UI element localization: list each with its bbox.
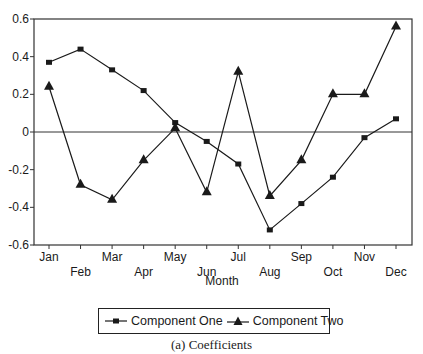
series-component-one xyxy=(46,47,399,233)
series-component-two xyxy=(44,21,401,203)
legend-label: Component Two xyxy=(253,314,344,328)
triangle-marker-icon xyxy=(139,154,149,163)
y-tick-label: 0.2 xyxy=(12,87,29,101)
y-axis-ticks: 0.60.40.20-0.2-0.4-0.6 xyxy=(8,12,34,252)
x-tick-label: Feb xyxy=(70,265,91,279)
square-marker-icon xyxy=(46,60,52,65)
x-axis-label: Month xyxy=(205,274,238,288)
square-marker-icon xyxy=(361,135,367,140)
x-tick-label: Aug xyxy=(259,265,280,279)
square-marker-icon xyxy=(267,227,273,232)
x-tick-label: Jul xyxy=(231,250,246,264)
y-tick-label: -0.4 xyxy=(8,200,29,214)
triangle-marker-icon xyxy=(359,88,369,97)
x-tick-label: Nov xyxy=(354,250,375,264)
y-tick-label: 0 xyxy=(22,125,29,139)
legend-item-component-two: Component Two xyxy=(227,314,344,328)
x-tick-label: Jan xyxy=(39,250,58,264)
square-marker-icon xyxy=(109,67,115,72)
triangle-marker-icon xyxy=(391,21,401,30)
line-chart: 0.60.40.20-0.2-0.4-0.6 JanFebMarAprMayJu… xyxy=(0,0,423,310)
triangle-marker-icon xyxy=(296,154,306,163)
x-tick-label: Sep xyxy=(291,250,313,264)
triangle-marker-icon xyxy=(227,316,249,326)
chart-series xyxy=(44,21,401,233)
y-tick-label: 0.6 xyxy=(12,12,29,26)
triangle-marker-icon xyxy=(233,66,243,75)
square-marker-icon xyxy=(298,201,304,206)
series-line xyxy=(49,27,396,200)
series-line xyxy=(49,49,396,230)
square-marker-icon xyxy=(141,88,147,93)
x-tick-label: Apr xyxy=(134,265,153,279)
legend-label: Component One xyxy=(131,314,223,328)
triangle-marker-icon xyxy=(44,81,54,90)
y-tick-label: -0.2 xyxy=(8,163,29,177)
x-tick-label: Mar xyxy=(102,250,123,264)
y-tick-label: 0.4 xyxy=(12,50,29,64)
triangle-marker-icon xyxy=(170,122,180,131)
x-tick-label: Dec xyxy=(385,265,406,279)
triangle-marker-icon xyxy=(328,88,338,97)
square-marker-icon xyxy=(330,175,336,180)
legend-item-component-one: Component One xyxy=(105,314,223,328)
triangle-marker-icon xyxy=(202,186,212,195)
y-tick-label: -0.6 xyxy=(8,238,29,252)
chart-legend: Component One Component Two xyxy=(98,308,330,334)
x-tick-label: May xyxy=(164,250,187,264)
square-marker-icon xyxy=(235,162,241,167)
square-marker-icon xyxy=(204,139,210,144)
square-marker-icon xyxy=(105,316,127,326)
triangle-marker-icon xyxy=(76,179,86,188)
square-marker-icon xyxy=(393,116,399,121)
x-tick-label: Oct xyxy=(324,265,343,279)
figure-caption: (a) Coefficients xyxy=(0,337,423,353)
square-marker-icon xyxy=(78,47,84,52)
